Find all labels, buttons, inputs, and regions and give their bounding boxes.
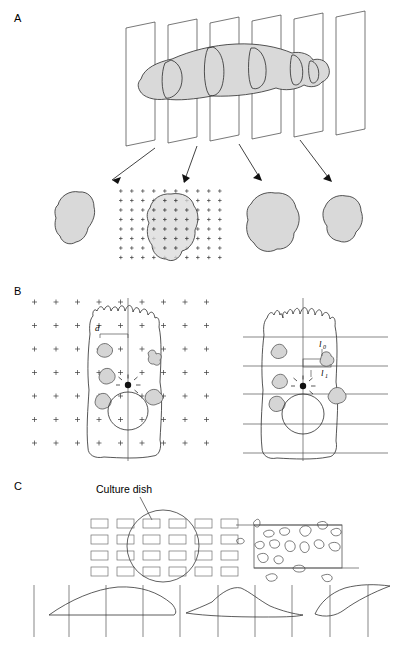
organelle [97, 344, 113, 358]
section-plane [336, 11, 365, 135]
section-arrow [182, 146, 197, 183]
section-profile [323, 196, 362, 242]
organ-body [138, 44, 329, 100]
panel-b-letter: B [14, 285, 21, 297]
cell-profile [280, 528, 290, 535]
organelle [145, 389, 163, 405]
tissue-block [169, 519, 186, 528]
section-arrows-group [112, 140, 332, 184]
panel-a-letter: A [14, 12, 22, 24]
organelle [148, 350, 161, 365]
cell-profile [266, 574, 277, 581]
tissue-block-outline [254, 525, 342, 568]
stereology-figure: A [0, 0, 395, 647]
intercept-label-l1: l [321, 368, 324, 378]
culture-dish-label: Culture dish [96, 483, 152, 495]
tissue-block [221, 551, 238, 560]
cell-profile [258, 553, 269, 562]
cell-profiles-group [237, 519, 342, 581]
tissue-block [143, 551, 160, 560]
tissue-block [91, 519, 108, 528]
section-arrow [112, 148, 155, 184]
intercept-measure-box: l 0 l 1 [303, 339, 334, 379]
magnified-tissue-block [236, 519, 359, 581]
section-profile-curve [186, 588, 303, 617]
organelle [271, 344, 287, 358]
section-profile [55, 192, 95, 244]
section-profile [247, 193, 300, 252]
tissue-block [169, 551, 186, 560]
tissue-block [143, 567, 160, 576]
tissue-block [91, 551, 108, 560]
section-profile-curve [49, 587, 176, 615]
test-point-lattice [32, 300, 209, 446]
tissue-block [221, 535, 238, 544]
cell-profile [331, 528, 341, 535]
intercept-label-l1-subscript: 1 [325, 373, 328, 379]
distance-label-d: d [95, 323, 100, 333]
tissue-block [91, 567, 108, 576]
tissue-block [169, 535, 186, 544]
section-arrow [300, 140, 332, 182]
tissue-block [221, 567, 238, 576]
organelle [328, 388, 346, 404]
tissue-block [195, 519, 212, 528]
intercept-label-l0: l [319, 339, 322, 349]
block-array [91, 519, 238, 576]
cell-profile [293, 565, 305, 572]
vertical-test-lines-group [34, 585, 368, 637]
cell-profile [274, 556, 283, 564]
horizontal-test-lines [243, 337, 388, 453]
intercept-label-l0-subscript: 0 [323, 344, 326, 350]
cell-profile [254, 519, 261, 527]
panel-a: A [14, 11, 365, 261]
tissue-block [117, 535, 134, 544]
three-dimensional-object [138, 44, 329, 100]
panel-b: B [14, 285, 388, 461]
panel-c-letter: C [14, 480, 22, 492]
cell-profile [329, 542, 340, 551]
cell-profile [300, 526, 311, 536]
cell-profile [255, 541, 264, 548]
tissue-block [117, 567, 134, 576]
point-counted-profile [119, 189, 222, 260]
panel-b-left-cell: d [32, 298, 209, 461]
section-profile [147, 194, 198, 261]
organelle [99, 368, 115, 384]
tissue-block [143, 535, 160, 544]
tissue-block [143, 519, 160, 528]
bottom-section-profiles [34, 585, 390, 637]
cell-profile [285, 541, 295, 552]
cell-profile [322, 574, 333, 581]
tissue-block [117, 519, 134, 528]
tissue-block [117, 551, 134, 560]
tissue-block [169, 567, 186, 576]
tissue-block [221, 519, 238, 528]
section-arrow [239, 144, 262, 181]
cell-profile [314, 540, 324, 549]
cell-profile [300, 542, 309, 553]
culture-dish-circle [127, 510, 199, 582]
tissue-block [91, 535, 108, 544]
panel-b-right-cell: l 0 l 1 [243, 298, 388, 461]
organelle [272, 374, 287, 388]
gold-particle [300, 383, 306, 389]
cell-profile [264, 530, 275, 537]
gold-particle [125, 382, 131, 388]
section-profile-curve [315, 585, 390, 616]
panel-c: C Culture dish [14, 480, 390, 637]
cell-profile [270, 540, 280, 548]
tissue-block [195, 567, 212, 576]
